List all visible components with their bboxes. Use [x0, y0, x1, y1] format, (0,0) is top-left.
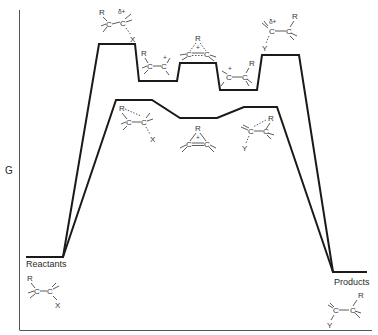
svg-text:X: X: [130, 35, 136, 44]
ts1b-structure: R C C X: [119, 104, 156, 144]
svg-text:C: C: [263, 127, 269, 136]
upper-energy-path: [26, 44, 367, 272]
svg-text:C: C: [286, 27, 292, 36]
svg-text:X: X: [55, 301, 61, 310]
svg-text:Y: Y: [327, 321, 333, 330]
svg-text:C: C: [186, 50, 192, 59]
svg-text:C: C: [226, 73, 232, 82]
svg-text:R: R: [141, 49, 147, 58]
svg-text:C: C: [204, 50, 210, 59]
svg-text:Y: Y: [262, 44, 268, 53]
svg-text:R: R: [119, 104, 125, 113]
svg-text:+: +: [196, 44, 200, 51]
ts3-structure: R C C δ+ Y: [262, 12, 298, 53]
ts2-structure: R + C C: [180, 34, 216, 61]
svg-text:+: +: [163, 54, 167, 61]
reactants-group: Reactants R C C X: [26, 259, 67, 310]
svg-text:R: R: [249, 59, 255, 68]
svg-text:C: C: [47, 287, 53, 296]
int2-structure: R C C +: [221, 59, 255, 86]
ts2b-structure: R C C Y: [241, 114, 274, 153]
ts1-structure: R C C δ+ X: [99, 8, 136, 44]
svg-text:Y: Y: [242, 144, 248, 153]
svg-text:C: C: [269, 27, 275, 36]
svg-text:C: C: [333, 306, 339, 315]
y-axis-label: G: [5, 165, 13, 176]
svg-text:R: R: [268, 114, 274, 123]
svg-text:C: C: [34, 287, 40, 296]
svg-text:+: +: [228, 65, 232, 72]
svg-text:C: C: [120, 19, 126, 28]
svg-text:R: R: [99, 8, 105, 17]
svg-text:R: R: [358, 291, 364, 300]
svg-text:C: C: [161, 62, 167, 71]
svg-text:δ+: δ+: [118, 8, 126, 15]
svg-text:C: C: [147, 62, 153, 71]
products-structure: R C C Y: [327, 291, 364, 330]
energy-diagram: G Reactants R C C X Products R C C: [0, 0, 378, 335]
svg-text:δ+: δ+: [269, 18, 277, 25]
svg-text:X: X: [150, 135, 156, 144]
products-label: Products: [334, 277, 370, 287]
svg-text:C: C: [141, 118, 147, 127]
svg-text:C: C: [242, 73, 248, 82]
svg-text:C: C: [126, 118, 132, 127]
reactants-label: Reactants: [26, 259, 67, 269]
svg-text:+: +: [196, 134, 200, 141]
svg-text:C: C: [248, 127, 254, 136]
svg-text:R: R: [195, 124, 201, 133]
reactants-structure: R C C X: [27, 274, 61, 310]
svg-text:R: R: [27, 274, 33, 283]
products-group: Products R C C Y: [327, 277, 370, 330]
svg-text:R: R: [292, 12, 298, 21]
int-bridged-structure: R + C C: [180, 124, 216, 152]
int1-structure: R C C +: [141, 49, 170, 75]
svg-text:R: R: [195, 34, 201, 43]
